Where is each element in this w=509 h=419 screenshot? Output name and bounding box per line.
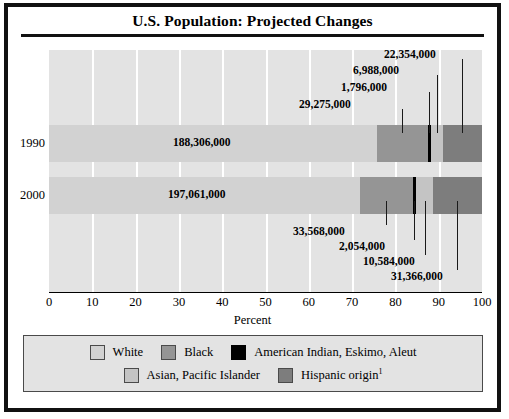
legend-row-1: White Black American Indian, Eskimo, Ale… — [24, 345, 482, 360]
legend-item-hispanic-origin: Hispanic origin1 — [278, 367, 382, 383]
legend-item-american-indian: American Indian, Eskimo, Aleut — [231, 345, 416, 360]
x-axis-tick-50: 50 — [246, 295, 286, 310]
stacked-bar-2000 — [49, 177, 482, 214]
legend-label-american-indian: American Indian, Eskimo, Aleut — [254, 345, 416, 360]
x-axis-tick-70: 70 — [332, 295, 372, 310]
page-title: U.S. Population: Projected Changes — [132, 12, 372, 30]
leader-american-indian-1990 — [429, 92, 430, 133]
x-axis-tick-10: 10 — [72, 295, 112, 310]
callout-black-1990: 29,275,000 — [299, 98, 351, 110]
x-axis-tick-0: 0 — [29, 295, 69, 310]
x-axis-tick-80: 80 — [375, 295, 415, 310]
x-axis-line — [49, 292, 482, 293]
x-axis-tick-30: 30 — [159, 295, 199, 310]
chart-title-bar: U.S. Population: Projected Changes — [8, 7, 497, 34]
callout-hispanic-2000: 31,366,000 — [391, 270, 443, 282]
y-axis-tick-1990: 1990 — [9, 136, 45, 151]
legend-label-asian-pacific-islander: Asian, Pacific Islander — [147, 368, 261, 383]
x-axis-tick-20: 20 — [116, 295, 156, 310]
x-axis-tick-90: 90 — [419, 295, 459, 310]
gridline-90 — [439, 50, 441, 292]
leader-asian-pacific-islander-2000 — [425, 201, 426, 255]
legend-label-hispanic-origin: Hispanic origin1 — [301, 367, 382, 383]
legend-label-white: White — [113, 345, 144, 360]
legend-swatch-black-icon — [161, 345, 176, 360]
plot-wrapper: 188,306,000 197,061,000 1990 2000 29,275… — [8, 37, 497, 302]
legend-label-black: Black — [184, 345, 213, 360]
x-axis-label: Percent — [8, 313, 497, 328]
gridline-50 — [266, 50, 268, 292]
bar-value-white-2000: 197,061,000 — [168, 188, 226, 200]
chart-figure: U.S. Population: Projected Changes 188,3… — [4, 3, 501, 412]
callout-asian-pacific-islander-1990: 6,988,000 — [353, 64, 399, 76]
y-axis-labels: 1990 2000 — [8, 50, 45, 292]
leader-american-indian-2000 — [414, 201, 415, 240]
y-axis-tick-2000: 2000 — [9, 188, 45, 203]
callout-asian-pacific-islander-2000: 10,584,000 — [363, 255, 415, 267]
leader-black-2000 — [386, 201, 387, 225]
gridline-40 — [222, 50, 224, 292]
gridline-20 — [136, 50, 138, 292]
x-axis-tick-40: 40 — [202, 295, 242, 310]
legend-swatch-white-icon — [90, 345, 105, 360]
callout-american-indian-2000: 2,054,000 — [339, 240, 385, 252]
legend-label-hispanic-origin-text: Hispanic origin — [301, 368, 378, 382]
x-axis-tick-100: 100 — [462, 295, 502, 310]
x-axis-tick-60: 60 — [289, 295, 329, 310]
callout-hispanic-1990: 22,354,000 — [384, 48, 436, 60]
legend-item-asian-pacific-islander: Asian, Pacific Islander — [124, 368, 261, 383]
bar-value-white-1990: 188,306,000 — [173, 136, 231, 148]
leader-hispanic-1990 — [462, 59, 463, 133]
legend-swatch-hispanic-origin-icon — [278, 368, 293, 383]
legend-row-2: Asian, Pacific Islander Hispanic origin1 — [24, 367, 482, 383]
leader-hispanic-2000 — [457, 201, 458, 270]
leader-asian-pacific-islander-1990 — [437, 75, 438, 133]
legend-item-black: Black — [161, 345, 213, 360]
chart-legend: White Black American Indian, Eskimo, Ale… — [23, 335, 483, 392]
legend-item-white: White — [90, 345, 144, 360]
callout-black-2000: 33,568,000 — [293, 225, 345, 237]
callout-american-indian-1990: 1,796,000 — [341, 81, 387, 93]
leader-black-1990 — [402, 109, 403, 133]
stacked-bar-1990 — [49, 125, 482, 162]
gridline-60 — [309, 50, 311, 292]
gridline-10 — [92, 50, 94, 292]
legend-swatch-american-indian-icon — [231, 345, 246, 360]
plot-area: 188,306,000 197,061,000 — [49, 50, 482, 292]
legend-swatch-asian-pacific-islander-icon — [124, 368, 139, 383]
gridline-30 — [179, 50, 181, 292]
legend-footnote-marker: 1 — [378, 367, 382, 376]
